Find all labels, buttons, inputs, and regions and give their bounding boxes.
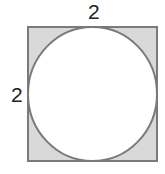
top-side-label: 2 <box>88 1 100 22</box>
left-side-label: 2 <box>11 84 23 105</box>
inscribed-circle <box>28 27 157 161</box>
inscribed-circle-diagram <box>0 0 165 174</box>
